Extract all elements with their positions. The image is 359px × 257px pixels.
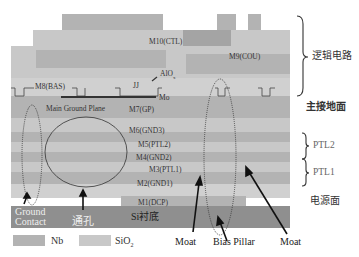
legend-swatch-sio2 [79, 235, 111, 246]
power-plane-label: 电源面 [310, 196, 340, 206]
legend-label-sio2: SiO2 [115, 235, 134, 248]
m6-label: M6(GND3) [129, 127, 164, 135]
main-ground-label: 主接地面 [306, 102, 346, 112]
m7-label: M7(GP) [129, 106, 154, 114]
moat-right-label: Moat [280, 236, 301, 247]
m8-label: M8(BAS) [35, 83, 65, 91]
legend-swatch-nb [13, 235, 45, 246]
jj-label: JJ [133, 82, 139, 90]
legend-label-nb: Nb [51, 235, 63, 246]
moat-left-label: Moat [175, 236, 196, 247]
m2-label: M2(GND1) [137, 180, 172, 188]
si-substrate-label: Si衬底 [131, 212, 159, 222]
mo-label: Mo [159, 94, 169, 102]
via-label: 通孔 [72, 212, 94, 228]
m5-label: M5(PTL2) [138, 141, 171, 149]
sio2-subscript: 2 [131, 242, 134, 248]
ptl2-label: PTL2 [313, 141, 335, 151]
m9-label: M9(COU) [229, 53, 260, 61]
ptl1-label: PTL1 [313, 168, 335, 178]
ground-contact-ellipse [22, 105, 42, 205]
via-ellipse [45, 117, 127, 187]
m1-label: M1(DCP) [138, 199, 168, 207]
logic-circuit-label: 逻辑电路 [312, 51, 352, 61]
m10-label: M10(CTL) [149, 38, 182, 46]
m3-label: M3(PTL1) [149, 166, 182, 174]
ground-contact-line2: Contact [15, 217, 46, 227]
bias-pillar-ellipse [204, 79, 236, 235]
alox-subscript: x [173, 75, 176, 80]
m4-label: M4(GND2) [136, 154, 171, 162]
ground-contact-label: Ground Contact [15, 207, 46, 227]
main-ground-plane-label: Main Ground Plane [46, 105, 105, 113]
bias-pillar-label: Bias Pillar [213, 236, 255, 247]
alox-label: AlOx [160, 70, 175, 80]
